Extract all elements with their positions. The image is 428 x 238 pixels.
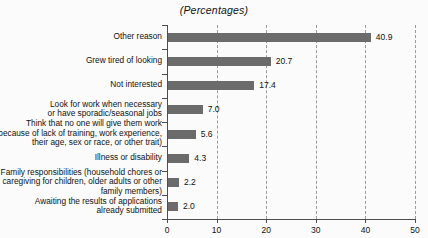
y-axis-tick [162, 98, 167, 99]
x-axis-tick [415, 219, 416, 223]
category-label: Look for work when necessary or have spo… [48, 100, 162, 119]
x-axis-tick-label: 0 [165, 225, 170, 235]
x-axis-tick-label: 50 [410, 225, 419, 235]
gridline [365, 25, 366, 219]
category-label: Family responsibilities (household chore… [1, 168, 162, 197]
chart-title: (Percentages) [0, 4, 428, 16]
y-axis-tick [162, 122, 167, 123]
category-label: Other reason [114, 32, 162, 42]
gridline [316, 25, 317, 219]
bar-value-label: 20.7 [276, 57, 293, 66]
gridline [217, 25, 218, 219]
bar-value-label: 5.6 [201, 130, 213, 139]
x-axis-tick [266, 219, 267, 223]
y-axis-tick [162, 25, 167, 26]
y-axis-tick [162, 74, 167, 75]
bar-value-label: 2.0 [183, 202, 195, 211]
x-axis-tick [217, 219, 218, 223]
x-axis-tick [365, 219, 366, 223]
bar-value-label: 2.2 [184, 178, 196, 187]
gridline [266, 25, 267, 219]
category-label: Think that no one will give them work (b… [0, 119, 162, 148]
x-axis-tick-label: 30 [311, 225, 320, 235]
bar-value-label: 4.3 [194, 154, 206, 163]
bar [168, 178, 179, 187]
y-axis-tick [162, 146, 167, 147]
x-axis-tick-label: 40 [361, 225, 370, 235]
category-label: Awaiting the results of applications alr… [35, 197, 162, 216]
x-axis-line [167, 219, 416, 220]
bar-chart: (Percentages) 01020304050 40.9Other reas… [0, 0, 428, 238]
bar [168, 33, 371, 42]
bar [168, 105, 203, 114]
category-label: Illness or disability [95, 153, 162, 163]
x-axis-tick-label: 10 [212, 225, 221, 235]
bar [168, 130, 196, 139]
bar-value-label: 40.9 [376, 33, 393, 42]
y-axis-line [167, 25, 168, 219]
y-axis-tick [162, 195, 167, 196]
category-label: Not interested [110, 80, 162, 90]
y-axis-tick [162, 49, 167, 50]
bar [168, 81, 254, 90]
bar [168, 202, 178, 211]
category-label: Grew tired of looking [86, 56, 162, 66]
y-axis-tick [162, 171, 167, 172]
gridline [415, 25, 416, 219]
bar [168, 154, 189, 163]
x-axis-tick [167, 219, 168, 223]
bar [168, 57, 271, 66]
bar-value-label: 17.4 [259, 81, 276, 90]
bar-value-label: 7.0 [208, 105, 220, 114]
x-axis-tick-label: 20 [261, 225, 270, 235]
x-axis-tick [316, 219, 317, 223]
